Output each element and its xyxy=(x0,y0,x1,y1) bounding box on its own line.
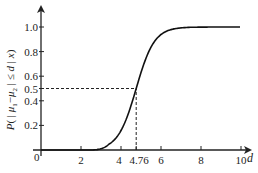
cdf-chart: 244.766810 0.20.40.50.60.81.0 d 0 P( | μ… xyxy=(0,0,258,173)
y-tick-label: 0.8 xyxy=(24,46,38,58)
x-ticks: 244.766810 xyxy=(78,146,247,166)
x-tick-label: 10 xyxy=(236,154,248,166)
y-tick-label: 0.4 xyxy=(24,95,38,107)
y-axis-label: P( | μ1−μ2 | ≤ d | x) xyxy=(4,49,19,131)
cdf-curve xyxy=(41,27,240,150)
x-tick-label: 4 xyxy=(116,154,122,166)
x-tick-label: 2 xyxy=(78,154,84,166)
x-tick-label: 8 xyxy=(198,154,204,166)
x-tick-label: 4.76 xyxy=(130,154,150,166)
guide-lines xyxy=(41,89,136,151)
y-tick-label: 0.2 xyxy=(24,119,38,131)
x-axis-label: d xyxy=(247,151,254,165)
y-tick-label: 0.6 xyxy=(24,70,38,82)
x-tick-label: 6 xyxy=(158,154,164,166)
y-tick-label: 0.5 xyxy=(24,83,38,95)
y-tick-label: 1.0 xyxy=(24,21,38,33)
svg-text:P( | μ1−μ2 | ≤ d | x): P( | μ1−μ2 | ≤ d | x) xyxy=(4,49,19,131)
origin-label: 0 xyxy=(34,151,40,163)
